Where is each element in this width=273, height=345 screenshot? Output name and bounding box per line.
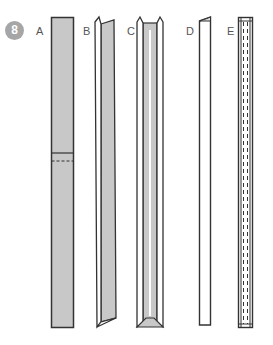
strip-b	[95, 17, 116, 327]
strip-e	[239, 18, 253, 328]
figure-8: 8 A B C D E	[0, 0, 273, 345]
strip-a	[52, 18, 74, 328]
strips-drawing	[0, 0, 273, 345]
strip-d	[200, 17, 211, 325]
strip-c	[137, 17, 163, 327]
